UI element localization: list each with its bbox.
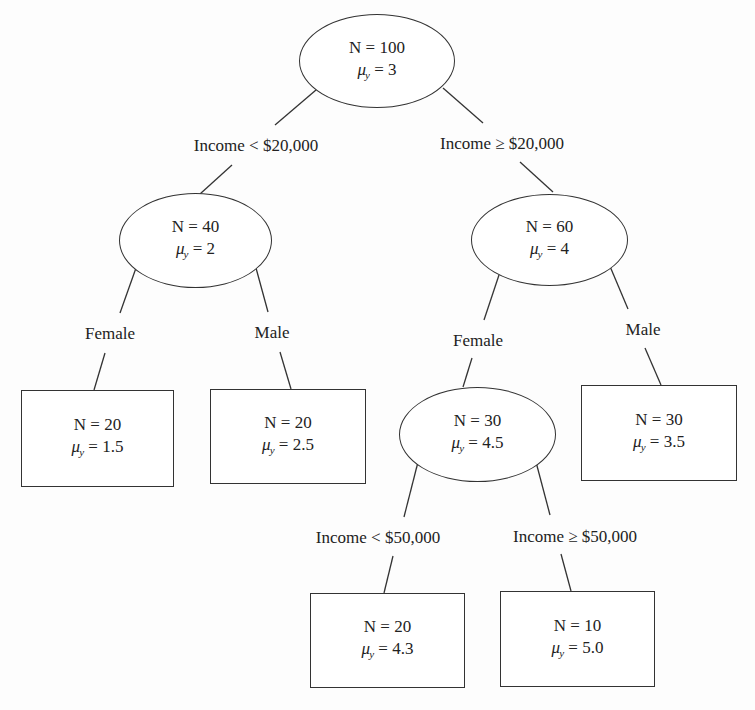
decision-tree-diagram: Income < $20,000 Income ≥ $20,000 Female… bbox=[0, 0, 755, 710]
edge-female-ge50k-lower bbox=[561, 554, 571, 591]
edge-root-low-upper bbox=[275, 90, 316, 125]
leaf-low-male: N = 20 μy = 2.5 bbox=[210, 389, 366, 484]
mean-value: = 4 bbox=[542, 239, 569, 258]
node-count: N = 100 bbox=[349, 37, 405, 59]
mean-value: = 4.5 bbox=[464, 433, 503, 452]
edge-female-lt50k-upper bbox=[404, 462, 418, 517]
node-count: N = 40 bbox=[172, 216, 219, 238]
edge-label-income-lt-20k: Income < $20,000 bbox=[194, 136, 318, 156]
mean-value: = 5.0 bbox=[564, 638, 603, 657]
edge-root-high-upper bbox=[443, 88, 483, 123]
mean-value: = 3 bbox=[370, 60, 397, 79]
edge-female-ge50k-upper bbox=[536, 462, 550, 515]
leaf-high-male: N = 30 μy = 3.5 bbox=[581, 385, 737, 481]
node-mean: μy = 4 bbox=[530, 238, 569, 265]
node-mean: μy = 5.0 bbox=[552, 637, 604, 664]
leaf-high-female-lt-50k: N = 20 μy = 4.3 bbox=[310, 593, 465, 688]
leaf-low-female: N = 20 μy = 1.5 bbox=[21, 390, 174, 487]
node-count: N = 20 bbox=[74, 414, 121, 436]
node-mean: μy = 4.5 bbox=[452, 432, 504, 459]
node-count: N = 30 bbox=[635, 409, 682, 431]
edge-high-female-lower bbox=[463, 358, 472, 387]
node-mean: μy = 4.3 bbox=[362, 638, 414, 665]
edge-low-female-upper bbox=[120, 268, 136, 313]
node-mean: μy = 3.5 bbox=[633, 431, 685, 458]
node-count: N = 10 bbox=[554, 615, 601, 637]
edge-female-lt50k-lower bbox=[384, 556, 393, 593]
node-income-lt-20k: N = 40 μy = 2 bbox=[119, 193, 272, 288]
node-count: N = 30 bbox=[454, 410, 501, 432]
edge-low-male-upper bbox=[256, 268, 268, 312]
edge-root-low-lower bbox=[200, 165, 232, 194]
edge-high-female-upper bbox=[484, 275, 499, 320]
edge-high-male-lower bbox=[645, 348, 661, 385]
edge-label-income-ge-20k: Income ≥ $20,000 bbox=[440, 134, 564, 154]
mean-value: = 2 bbox=[188, 239, 215, 258]
node-mean: μy = 2.5 bbox=[262, 434, 314, 461]
mean-value: = 1.5 bbox=[84, 437, 123, 456]
mean-value: = 2.5 bbox=[275, 435, 314, 454]
node-mean: μy = 3 bbox=[357, 59, 396, 86]
node-mean: μy = 2 bbox=[176, 238, 215, 265]
node-high-female: N = 30 μy = 4.5 bbox=[399, 387, 556, 482]
node-count: N = 20 bbox=[264, 412, 311, 434]
edge-label-income-lt-50k: Income < $50,000 bbox=[316, 528, 440, 548]
edge-root-high-lower bbox=[520, 162, 553, 192]
leaf-high-female-ge-50k: N = 10 μy = 5.0 bbox=[500, 591, 655, 687]
edge-label-female-high: Female bbox=[453, 331, 503, 351]
node-count: N = 60 bbox=[526, 216, 573, 238]
node-mean: μy = 1.5 bbox=[72, 436, 124, 463]
node-income-ge-20k: N = 60 μy = 4 bbox=[471, 194, 628, 286]
mean-value: = 3.5 bbox=[646, 432, 685, 451]
node-root: N = 100 μy = 3 bbox=[299, 14, 455, 108]
edge-label-female-low: Female bbox=[85, 324, 135, 344]
node-count: N = 20 bbox=[364, 616, 411, 638]
mean-value: = 4.3 bbox=[374, 639, 413, 658]
edge-label-male-low: Male bbox=[255, 323, 290, 343]
edge-low-male-lower bbox=[280, 352, 291, 389]
edge-high-male-upper bbox=[609, 264, 628, 309]
edge-low-female-lower bbox=[94, 353, 105, 390]
edge-label-income-ge-50k: Income ≥ $50,000 bbox=[513, 527, 637, 547]
edge-label-male-high: Male bbox=[626, 320, 661, 340]
